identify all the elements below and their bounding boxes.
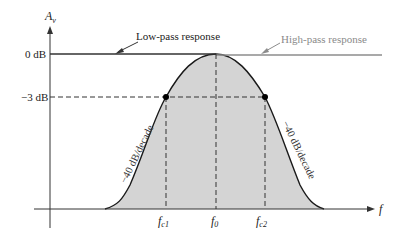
x-axis-label: f: [379, 202, 384, 216]
fc2-label: fc2: [256, 214, 267, 229]
zero-db-label: 0 dB: [25, 48, 46, 60]
high-pass-label: High-pass response: [281, 33, 367, 45]
fc2-point: [262, 94, 268, 100]
low-pass-label: Low-pass response: [136, 30, 220, 42]
y-axis-arrow-icon: [47, 26, 53, 34]
fc1-point: [163, 94, 169, 100]
bandpass-chart: Av f 0 dB −3 dB Low-pass response High-p…: [0, 0, 405, 246]
low-pass-pointer-arrowhead-icon: [115, 48, 124, 54]
y-axis-label: Av: [44, 9, 56, 25]
x-axis-arrow-icon: [367, 206, 375, 212]
high-pass-pointer-arrowhead-icon: [261, 48, 269, 54]
minus3-db-label: −3 dB: [21, 91, 48, 103]
fc1-label: fc1: [158, 214, 169, 229]
f0-label: f0: [211, 214, 218, 229]
